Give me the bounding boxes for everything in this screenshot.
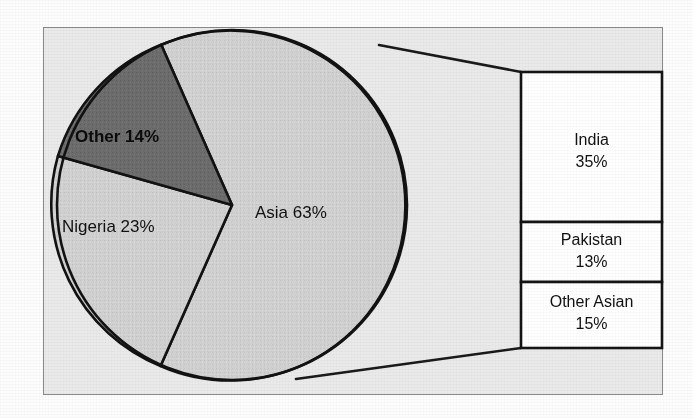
breakout-label-pakistan: Pakistan (561, 231, 622, 248)
figure-page: Other 14% Nigeria 23% Asia 63% India 35%… (0, 0, 693, 418)
breakout-value-pakistan: 13% (575, 253, 607, 270)
pie-chart-figure: Other 14% Nigeria 23% Asia 63% India 35%… (0, 0, 693, 418)
breakout-label-other-asian: Other Asian (550, 293, 634, 310)
breakout-box-pakistan[interactable]: Pakistan 13% (521, 222, 662, 282)
breakout-value-india: 35% (575, 153, 607, 170)
pie-group (51, 30, 407, 381)
breakout-value-other-asian: 15% (575, 315, 607, 332)
pie-label-asia: Asia 63% (255, 203, 327, 222)
callout-line-bottom (296, 348, 521, 379)
breakout-label-india: India (574, 131, 609, 148)
breakout-column: India 35% Pakistan 13% Other Asian 15% (521, 72, 662, 348)
callout-line-top (379, 45, 521, 72)
pie-label-other: Other 14% (75, 127, 159, 146)
pie-label-nigeria: Nigeria 23% (62, 217, 155, 236)
breakout-box-other-asian[interactable]: Other Asian 15% (521, 282, 662, 348)
breakout-box-india[interactable]: India 35% (521, 72, 662, 222)
